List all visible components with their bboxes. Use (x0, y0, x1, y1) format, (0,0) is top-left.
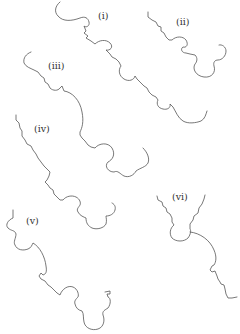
label-iii: (iii) (48, 60, 65, 71)
curve-panel-vi: (vi) (157, 191, 237, 298)
label-vi: (vi) (172, 191, 188, 202)
label-iv: (iv) (34, 123, 50, 134)
label-i: (i) (98, 10, 108, 21)
label-ii: (ii) (176, 16, 190, 27)
curve-v (7, 210, 110, 330)
curve-vi-tail (190, 232, 237, 298)
curve-panel-iv: (iv) (16, 115, 115, 229)
curve-figure: (i) (ii) (iii) (iv) (v) (vi) (0, 0, 240, 334)
label-v: (v) (26, 215, 39, 226)
curve-iv (16, 115, 115, 229)
curve-iii (24, 52, 149, 177)
curve-panel-ii: (ii) (148, 12, 226, 77)
curve-panel-v: (v) (7, 210, 110, 330)
curve-panel-iii: (iii) (24, 52, 149, 177)
